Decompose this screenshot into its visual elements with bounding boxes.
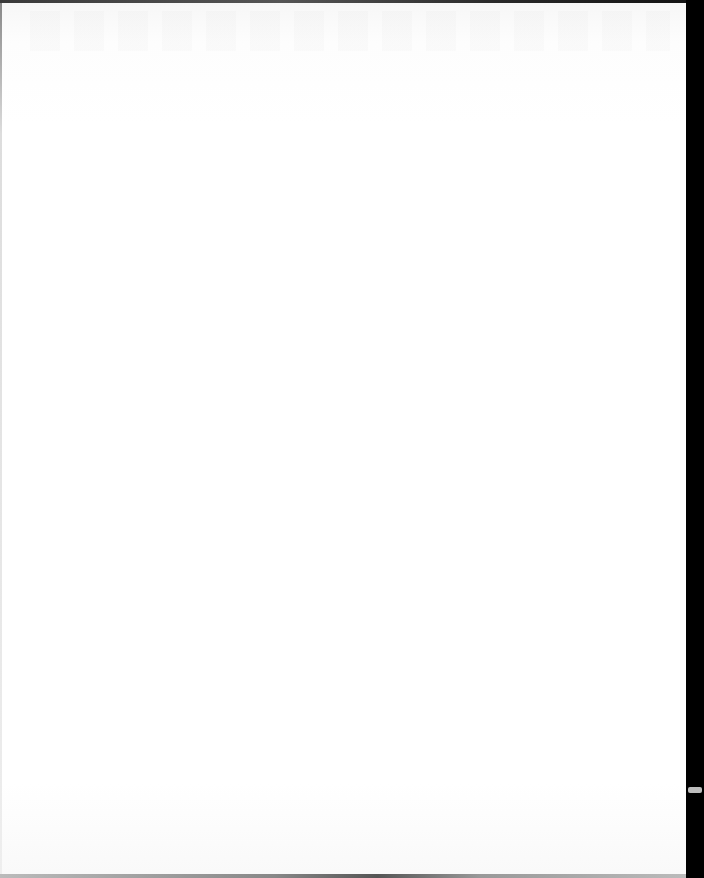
scan-artifact [688, 787, 702, 793]
bleed-through-text [30, 11, 670, 51]
scan-bottom-edge [0, 874, 686, 878]
scan-left-edge [0, 3, 2, 875]
scan-right-border [686, 0, 704, 878]
blank-page [0, 3, 686, 875]
